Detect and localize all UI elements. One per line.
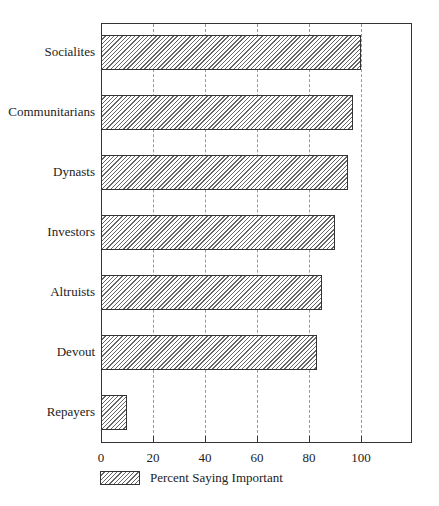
category-label: Socialites: [44, 44, 95, 60]
category-label: Communitarians: [8, 104, 95, 120]
x-tick-label: 80: [303, 450, 316, 466]
x-tick-label: 0: [98, 450, 105, 466]
x-tick: [101, 436, 102, 443]
bar: [101, 395, 127, 430]
bar: [101, 95, 353, 130]
category-label: Repayers: [47, 404, 95, 420]
x-tick: [205, 436, 206, 443]
bar: [101, 35, 361, 70]
x-tick: [153, 436, 154, 443]
category-label: Devout: [57, 344, 95, 360]
gridline: [361, 24, 362, 443]
x-tick-label: 20: [147, 450, 160, 466]
x-tick: [257, 436, 258, 443]
x-tick: [309, 436, 310, 443]
legend-label: Percent Saying Important: [150, 470, 283, 486]
x-tick-label: 100: [351, 450, 371, 466]
x-tick-label: 40: [199, 450, 212, 466]
category-label: Investors: [47, 224, 95, 240]
bar: [101, 275, 322, 310]
category-label: Dynasts: [53, 164, 95, 180]
category-label: Altruists: [50, 284, 95, 300]
bar: [101, 155, 348, 190]
x-tick: [361, 436, 362, 443]
bar: [101, 215, 335, 250]
bar: [101, 335, 317, 370]
legend-swatch: [100, 471, 140, 485]
x-tick-label: 60: [251, 450, 264, 466]
